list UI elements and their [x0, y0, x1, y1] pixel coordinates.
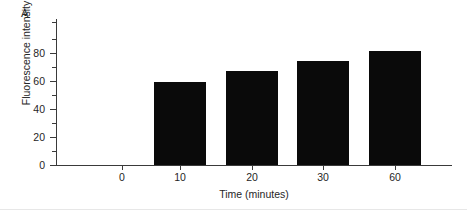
bar-10-minutes [154, 82, 206, 165]
bar-30-minutes [297, 61, 349, 165]
y-tick-80 [50, 53, 56, 54]
x-tick-label-30: 30 [303, 172, 343, 183]
x-tick-20 [252, 166, 253, 170]
y-minor-tick-top [52, 22, 56, 23]
x-tick-label-0: 0 [102, 172, 142, 183]
y-minor-tick-70 [52, 67, 56, 68]
y-axis-title: Fluorescence intensity [20, 0, 32, 123]
x-tick-60 [395, 166, 396, 170]
y-minor-tick-30 [52, 123, 56, 124]
bar-60-minutes [369, 51, 421, 165]
y-tick-0 [50, 165, 56, 166]
x-tick-label-60: 60 [375, 172, 415, 183]
y-tick-label-20: 20 [21, 132, 45, 143]
y-tick-20 [50, 137, 56, 138]
x-axis-title: Time (minutes) [56, 188, 452, 200]
x-tick-30 [323, 166, 324, 170]
bar-20-minutes [226, 71, 278, 165]
x-tick-10 [180, 166, 181, 170]
bar-chart-plot-area: 0 20 40 60 80 0 10 20 30 60 Fluorescence… [0, 0, 467, 211]
x-tick-label-10: 10 [160, 172, 200, 183]
y-minor-tick-50 [52, 95, 56, 96]
y-tick-40 [50, 109, 56, 110]
x-tick-label-20: 20 [232, 172, 272, 183]
x-axis-line [56, 165, 452, 166]
page-divider-rule [0, 209, 467, 210]
x-tick-0 [122, 166, 123, 170]
y-minor-tick-90 [52, 39, 56, 40]
y-minor-tick-10 [52, 151, 56, 152]
y-axis-line [56, 19, 57, 166]
y-tick-label-0: 0 [21, 160, 45, 171]
figure-panel-a: A 0 20 40 60 80 0 10 20 30 60 [0, 0, 467, 211]
y-tick-60 [50, 81, 56, 82]
